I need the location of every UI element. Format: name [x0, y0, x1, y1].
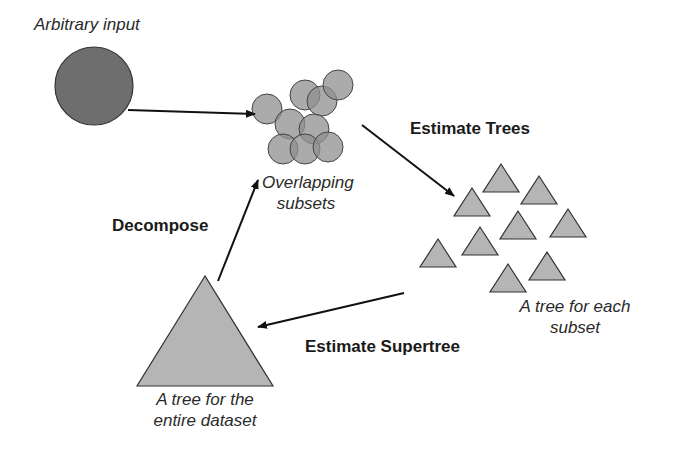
supertree-label-line1: A tree for the	[135, 389, 275, 410]
supertree-label-line2: entire dataset	[135, 410, 275, 431]
subset-tree-triangle	[550, 209, 586, 237]
input-circle	[55, 47, 133, 125]
supertree-label: A tree for the entire dataset	[135, 389, 275, 431]
decompose-label: Decompose	[112, 216, 208, 236]
subset-tree-triangle	[420, 239, 456, 267]
arrow-decompose	[218, 180, 258, 281]
subset-tree-triangle	[500, 211, 536, 239]
subset-trees	[420, 164, 586, 292]
estimate-supertree-label: Estimate Supertree	[305, 337, 460, 357]
subset-tree-triangle	[462, 227, 498, 255]
subset-tree-triangle	[483, 164, 519, 192]
subset-circles	[252, 70, 353, 164]
arrow-estimate-supertree	[258, 293, 404, 327]
subsets-label-line2: subsets	[262, 193, 350, 214]
supertree-triangle	[137, 276, 273, 386]
diagram-canvas	[0, 0, 674, 454]
estimate-trees-label: Estimate Trees	[410, 119, 530, 139]
subsets-label-line1: Overlapping	[262, 172, 350, 193]
subset-circle	[323, 70, 353, 100]
subsets-label: Overlapping subsets	[262, 172, 350, 214]
subset-tree-triangle	[529, 252, 565, 280]
subset-tree-triangle	[521, 176, 557, 204]
input-label: Arbitrary input	[34, 14, 140, 35]
subset-circle	[313, 132, 343, 162]
arrow-input-to-subsets	[128, 110, 255, 114]
subset-trees-label: A tree for each subset	[505, 296, 645, 338]
subset-trees-label-line2: subset	[505, 317, 645, 338]
subset-trees-label-line1: A tree for each	[505, 296, 645, 317]
subset-tree-triangle	[490, 264, 526, 292]
